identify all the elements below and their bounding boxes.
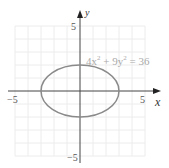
eq-rhs: = 36	[127, 55, 150, 67]
x-axis-arrow-icon	[153, 88, 161, 94]
equation-label: 4x2 + 9y2 = 36	[86, 55, 149, 67]
x-axis-label: x	[155, 96, 160, 108]
eq-term-4x: 4x	[86, 55, 97, 67]
y-axis-label: y	[85, 8, 89, 18]
eq-term-9y: + 9y	[101, 55, 124, 67]
x-tick-neg5: −5	[7, 95, 18, 105]
y-tick-neg5: −5	[67, 153, 78, 163]
coordinate-plane	[0, 0, 169, 168]
x-tick-5: 5	[140, 95, 145, 105]
y-axis-arrow-icon	[77, 10, 83, 18]
y-tick-5: 5	[71, 22, 76, 32]
